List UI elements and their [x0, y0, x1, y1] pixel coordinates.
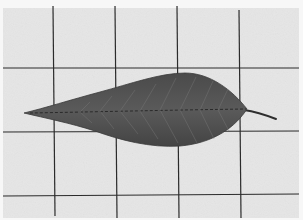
leaf-photo — [0, 0, 303, 220]
leaf-photo-canvas — [0, 0, 303, 220]
